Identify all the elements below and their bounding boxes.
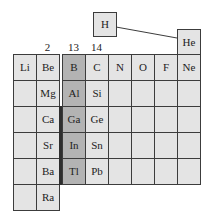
empty-cell: [177, 80, 201, 107]
element-ne: Ne: [177, 54, 201, 81]
empty-cell: [177, 106, 201, 133]
element-sn: Sn: [85, 132, 109, 159]
element-sr: Sr: [36, 132, 60, 159]
element-f: F: [154, 54, 178, 81]
element-ga: Ga: [62, 106, 86, 133]
empty-cell: [108, 158, 132, 185]
element-be: Be: [36, 54, 60, 81]
empty-cell: [177, 132, 201, 159]
empty-cell: [131, 80, 155, 107]
element-ca: Ca: [36, 106, 60, 133]
empty-cell: [154, 132, 178, 159]
element-tl: Tl: [62, 158, 86, 185]
empty-cell: [154, 158, 178, 185]
periodic-table-diagram: H He 2 13 14 LiBeBCNOFNeMgAlSiCaGaGeSrIn…: [0, 0, 213, 220]
empty-cell: [177, 158, 201, 185]
empty-cell: [108, 106, 132, 133]
element-n: N: [108, 54, 132, 81]
empty-cell: [131, 158, 155, 185]
element-si: Si: [85, 80, 109, 107]
empty-cell: [131, 132, 155, 159]
group-label-2: 2: [36, 42, 59, 53]
empty-cell: [108, 80, 132, 107]
element-ba: Ba: [36, 158, 60, 185]
element-al: Al: [62, 80, 86, 107]
element-ra: Ra: [36, 184, 60, 211]
empty-cell: [154, 80, 178, 107]
element-hydrogen: H: [93, 12, 117, 37]
element-mg: Mg: [36, 80, 60, 107]
element-ge: Ge: [85, 106, 109, 133]
empty-cell: [13, 158, 37, 185]
element-c: C: [85, 54, 109, 81]
group-label-14: 14: [85, 42, 108, 53]
empty-cell: [13, 132, 37, 159]
element-b: B: [62, 54, 86, 81]
element-o: O: [131, 54, 155, 81]
element-pb: Pb: [85, 158, 109, 185]
empty-cell: [131, 106, 155, 133]
group-label-13: 13: [62, 42, 85, 53]
empty-cell: [13, 106, 37, 133]
element-helium: He: [177, 29, 201, 55]
element-in: In: [62, 132, 86, 159]
empty-cell: [108, 132, 132, 159]
empty-cell: [13, 184, 37, 211]
empty-cell: [13, 80, 37, 107]
empty-cell: [154, 106, 178, 133]
element-li: Li: [13, 54, 37, 81]
connector-line: [116, 27, 177, 38]
group13-left-divider: [59, 106, 62, 185]
